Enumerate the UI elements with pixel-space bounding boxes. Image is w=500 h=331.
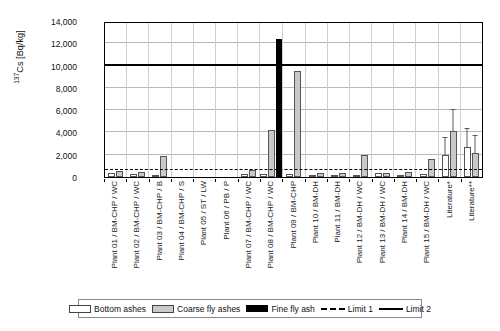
x-axis-tick-label: Plant 02 / BM-CHP / WC — [133, 181, 141, 268]
bar-coarse — [138, 172, 145, 177]
bar-fine — [276, 39, 282, 177]
bar-coarse — [116, 171, 123, 177]
bar-group — [194, 23, 216, 177]
bar-bottom — [260, 174, 267, 177]
legend-swatch-white — [69, 305, 91, 313]
x-tick-mark — [438, 179, 439, 182]
error-bar-cap — [465, 128, 470, 129]
error-bar — [453, 110, 454, 131]
x-axis-tick: Plant 05 / ST / LW — [193, 179, 215, 291]
x-axis-tick: Literature** — [461, 179, 483, 291]
bar-group — [172, 23, 194, 177]
x-tick-mark — [126, 179, 127, 182]
x-axis-tick-label: Literature** — [468, 181, 476, 221]
bar-coarse — [383, 173, 390, 177]
legend-item: Bottom ashes — [69, 304, 146, 314]
bar-group — [416, 23, 438, 177]
x-axis-tick-label: Plant 12 / BM-DH / WC — [356, 181, 364, 263]
x-axis-tick-label: Plant 14 / BM-DH — [401, 181, 409, 243]
y-axis-title-superscript: 137 — [13, 73, 20, 84]
y-axis-tick-label: 12,000 — [51, 40, 77, 49]
y-axis-tick-label: 14,000 — [51, 18, 77, 27]
x-axis-tick-label: Plant 06 / PB / P — [223, 181, 231, 240]
bar-coarse — [428, 159, 435, 177]
error-bar — [467, 129, 468, 147]
bar-coarse — [160, 156, 167, 177]
bar-group — [372, 23, 394, 177]
x-tick-mark — [171, 179, 172, 182]
bar-group — [306, 23, 328, 177]
bar-bottom — [397, 175, 404, 177]
error-bar — [475, 136, 476, 152]
x-axis-tick: Plant 03 / BM-CHP / B — [149, 179, 171, 291]
plot-area — [104, 22, 483, 178]
legend-swatch-dash — [321, 308, 345, 310]
legend-item: Limit 1 — [321, 304, 373, 314]
x-axis-tick: Plant 14 / BM-DH — [394, 179, 416, 291]
legend-label: Limit 2 — [406, 304, 431, 314]
x-tick-mark — [461, 179, 462, 182]
bar-coarse — [317, 173, 324, 177]
error-bar-cap — [443, 137, 448, 138]
x-axis-tick-label: Plant 05 / ST / LW — [200, 181, 208, 245]
legend-item: Coarse fly ashes — [152, 304, 240, 314]
chart-figure: 137Cs [Bq/kg] 14,00012,00010,0008,0006,0… — [0, 0, 500, 331]
bar-group — [350, 23, 372, 177]
x-axis-tick: Plant 07 / BM-CHP / WC — [238, 179, 260, 291]
bar-group — [238, 23, 260, 177]
x-axis-tick-label: Plant 04 / BM-CHP / S — [178, 181, 186, 260]
legend-label: Limit 1 — [348, 304, 373, 314]
x-axis-tick: Plant 13 / BM-DH / WC — [372, 179, 394, 291]
y-axis-tick-label: 8,000 — [56, 85, 77, 94]
x-tick-mark — [282, 179, 283, 182]
bar-bottom — [442, 155, 449, 177]
x-tick-mark — [327, 179, 328, 182]
error-bar-cap — [451, 109, 456, 110]
bar-bottom — [286, 174, 293, 177]
y-axis-tick-label: 0 — [72, 174, 77, 183]
x-axis-tick: Plant 01 / BM-CHP / WC — [104, 179, 126, 291]
bar-coarse — [361, 155, 368, 177]
x-axis-tick: Plant 02 / BM-CHP / WC — [126, 179, 148, 291]
legend-label: Coarse fly ashes — [177, 304, 240, 314]
bar-group — [461, 23, 482, 177]
bar-bottom — [353, 175, 360, 177]
legend-swatch-black — [246, 305, 268, 312]
x-tick-mark — [238, 179, 239, 182]
x-tick-mark — [349, 179, 350, 182]
x-tick-mark — [394, 179, 395, 182]
bar-group — [283, 23, 305, 177]
error-bar-cap — [473, 135, 478, 136]
x-axis-tick-label: Plant 07 / BM-CHP / WC — [245, 181, 253, 268]
x-axis-tick: Plant 15 / BM-DH / WC — [416, 179, 438, 291]
bar-bottom — [464, 147, 471, 177]
bar-bottom — [108, 173, 115, 177]
bar-coarse — [472, 153, 479, 178]
x-axis-tick-labels: Plant 01 / BM-CHP / WCPlant 02 / BM-CHP … — [104, 179, 483, 291]
y-axis-tick-label: 6,000 — [56, 107, 77, 116]
x-axis-tick: Plant 09 / BM-CHP — [282, 179, 304, 291]
bar-bottom — [130, 174, 137, 177]
bar-group — [216, 23, 238, 177]
bar-bottom — [152, 175, 159, 177]
legend-label: Bottom ashes — [94, 304, 146, 314]
bar-groups — [105, 23, 482, 177]
bar-group — [439, 23, 461, 177]
y-axis-tick-label: 4,000 — [56, 129, 77, 138]
y-axis-tick-label: 10,000 — [51, 63, 77, 72]
x-tick-mark — [193, 179, 194, 182]
x-tick-mark — [372, 179, 373, 182]
chart-legend: Bottom ashesCoarse fly ashesFine fly ash… — [78, 299, 422, 318]
x-axis-tick-label: Plant 13 / BM-DH / WC — [379, 181, 387, 263]
x-axis-tick: Plant 11 / BM-DH — [327, 179, 349, 291]
x-tick-mark — [416, 179, 417, 182]
reference-line-limit-1 — [105, 169, 482, 170]
bar-bottom — [241, 174, 248, 177]
x-tick-mark — [149, 179, 150, 182]
bar-group — [394, 23, 416, 177]
x-axis-tick-label: Plant 01 / BM-CHP / WC — [111, 181, 119, 268]
error-bar — [445, 138, 446, 155]
y-axis-tick-label: 2,000 — [56, 152, 77, 161]
x-axis-tick: Plant 12 / BM-DH / WC — [349, 179, 371, 291]
x-axis-tick: Plant 10 / BM-DH — [305, 179, 327, 291]
